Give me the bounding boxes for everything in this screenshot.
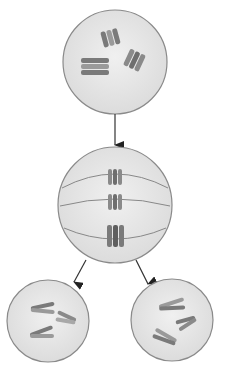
arrow-right <box>136 260 148 284</box>
arrow-left <box>74 260 86 282</box>
mitosis-diagram <box>0 0 231 374</box>
parent-cell <box>63 10 167 114</box>
daughter-cell-left <box>7 280 89 362</box>
metaphase-cell <box>58 147 172 263</box>
chromosome-aligned-1 <box>108 169 122 185</box>
chromosome-aligned-3 <box>107 225 124 247</box>
daughter-cell-right <box>131 279 213 361</box>
chromosome-aligned-2 <box>108 194 122 210</box>
chromosome-pair-3 <box>81 58 109 75</box>
